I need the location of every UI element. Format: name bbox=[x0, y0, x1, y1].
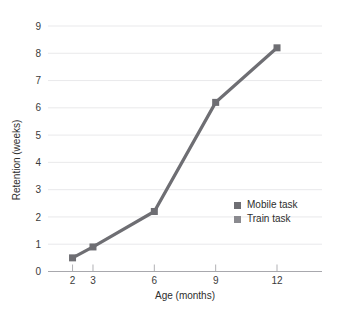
y-tick-label-6: 6 bbox=[35, 102, 41, 113]
y-tick-label-7: 7 bbox=[35, 75, 41, 86]
x-axis-title: Age (months) bbox=[155, 290, 215, 301]
data-marker-3 bbox=[212, 99, 219, 106]
data-marker-0 bbox=[69, 254, 76, 261]
x-tick-label-9: 9 bbox=[213, 275, 219, 286]
data-marker-1 bbox=[89, 243, 96, 250]
y-tick-label-9: 9 bbox=[35, 21, 41, 32]
y-tick-label-8: 8 bbox=[35, 48, 41, 59]
y-tick-label-1: 1 bbox=[35, 239, 41, 250]
data-marker-2 bbox=[151, 208, 158, 215]
y-tick-label-5: 5 bbox=[35, 130, 41, 141]
x-tick-label-12: 12 bbox=[271, 275, 283, 286]
x-tick-label-3: 3 bbox=[90, 275, 96, 286]
chart-canvas: 0123456789 236912 Age (months) Retention… bbox=[0, 0, 337, 314]
line-chart: 0123456789 236912 Age (months) Retention… bbox=[0, 0, 337, 314]
x-tick-label-2: 2 bbox=[70, 275, 76, 286]
y-tick-label-2: 2 bbox=[35, 212, 41, 223]
y-axis-title: Retention (weeks) bbox=[11, 120, 22, 201]
legend-label-0: Mobile task bbox=[247, 199, 299, 210]
legend-swatch-0 bbox=[234, 202, 241, 209]
y-tick-label-0: 0 bbox=[35, 266, 41, 277]
legend-label-1: Train task bbox=[247, 213, 292, 224]
chart-background bbox=[0, 0, 337, 314]
legend-swatch-1 bbox=[234, 216, 241, 223]
y-tick-label-3: 3 bbox=[35, 184, 41, 195]
y-tick-label-4: 4 bbox=[35, 157, 41, 168]
x-tick-label-6: 6 bbox=[152, 275, 158, 286]
data-marker-4 bbox=[274, 44, 281, 51]
